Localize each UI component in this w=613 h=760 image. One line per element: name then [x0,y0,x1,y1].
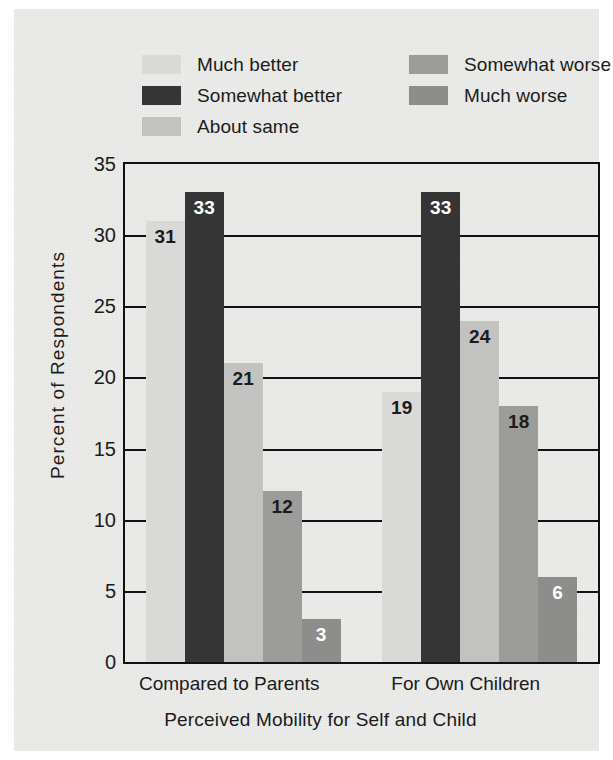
bar-value-label: 33 [421,197,460,219]
y-axis-tick-label: 15 [70,437,116,460]
legend-item[interactable]: Much worse [409,80,611,111]
bar[interactable]: 21 [224,363,263,662]
bar-value-label: 6 [538,582,577,604]
legend-item[interactable]: Somewhat better [142,80,342,111]
legend-swatch-icon [142,55,181,74]
y-axis-tick-label: 25 [70,295,116,318]
bar-value-label: 33 [185,197,224,219]
legend-swatch-icon [409,86,448,105]
bar-value-label: 19 [382,397,421,419]
bar[interactable]: 3 [302,619,341,662]
bar-value-label: 31 [146,226,185,248]
x-axis-tick-label: Compared to Parents [99,673,359,695]
y-axis-tick-label: 10 [70,508,116,531]
bar[interactable]: 19 [382,392,421,662]
scanned-page-surface: Much betterSomewhat betterAbout same Som… [14,9,599,751]
y-axis-tick-label: 35 [70,153,116,176]
legend-swatch-icon [142,117,181,136]
legend-swatch-icon [142,86,181,105]
bars-layer: 313321123193324186 [125,164,598,662]
y-axis-tick-labels: 35302520151050 [64,162,116,664]
legend-item[interactable]: Much better [142,49,342,80]
y-axis-tick-label: 20 [70,366,116,389]
y-axis-tick-label: 0 [70,651,116,674]
bar[interactable]: 31 [146,221,185,662]
legend-label: Somewhat worse [464,54,611,76]
bar-value-label: 18 [499,411,538,433]
y-axis-title: Percent of Respondents [47,235,69,495]
bar-value-label: 21 [224,368,263,390]
bar[interactable]: 6 [538,577,577,662]
x-axis-tick-label: For Own Children [336,673,596,695]
legend-label: Much worse [464,85,567,107]
y-axis-tick-label: 5 [70,579,116,602]
legend-label: About same [197,116,299,138]
legend-column-right: Somewhat worseMuch worse [409,49,611,111]
legend-item[interactable]: Somewhat worse [409,49,611,80]
legend-label: Much better [197,54,298,76]
bar[interactable]: 12 [263,491,302,662]
x-axis-title: Perceived Mobility for Self and Child [14,709,613,731]
legend-label: Somewhat better [197,85,342,107]
chart-page: Much betterSomewhat betterAbout same Som… [0,0,613,760]
bar-value-label: 24 [460,326,499,348]
bar-value-label: 12 [263,496,302,518]
bar[interactable]: 18 [499,406,538,662]
legend-column-left: Much betterSomewhat betterAbout same [142,49,342,142]
bar[interactable]: 33 [421,192,460,662]
bar[interactable]: 24 [460,321,499,662]
chart-legend: Much betterSomewhat betterAbout same Som… [142,49,582,145]
bar[interactable]: 33 [185,192,224,662]
legend-swatch-icon [409,55,448,74]
y-axis-tick-label: 30 [70,224,116,247]
plot-area: 313321123193324186 [123,162,600,664]
legend-item[interactable]: About same [142,111,342,142]
bar-value-label: 3 [302,624,341,646]
